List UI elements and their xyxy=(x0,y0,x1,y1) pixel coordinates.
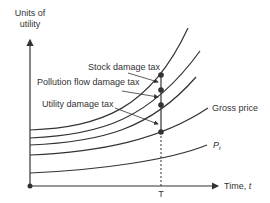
label-stock-damage: Stock damage tax xyxy=(88,62,161,72)
arrow-pollution-flow xyxy=(122,91,158,97)
dot-utility-damage xyxy=(158,102,164,108)
curve-p-t xyxy=(30,145,207,173)
label-gross-price: Gross price xyxy=(212,103,258,113)
label-utility-damage: Utility damage tax xyxy=(42,99,114,109)
origin-dot xyxy=(28,184,33,189)
y-axis-label-line1: Units of xyxy=(15,8,46,18)
y-axis-label-line2: utility xyxy=(20,19,41,29)
x-axis-label: Time, t xyxy=(224,181,252,191)
dot-pollution-flow xyxy=(158,87,164,93)
curve-gross-price xyxy=(30,108,208,155)
dot-gross-price xyxy=(158,129,164,135)
label-pollution-flow: Pollution flow damage tax xyxy=(37,77,140,87)
curve-utility-damage xyxy=(30,77,196,145)
diagram-canvas: Units of utility Stock damage tax Pollut… xyxy=(0,0,270,203)
time-marker-label: T xyxy=(158,189,164,199)
label-p-t: Pt xyxy=(213,140,221,151)
dot-stock-damage xyxy=(158,72,164,78)
